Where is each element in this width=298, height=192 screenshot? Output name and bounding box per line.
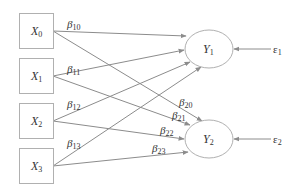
coef-b21: β21 [171,109,185,123]
coef-b13: β13 [66,137,80,151]
coef-b11: β11 [66,63,80,77]
error-e2: ε2 [273,133,282,147]
edge-x1-y2 [53,76,190,125]
node-x0: X0 [20,14,54,49]
path-diagram: X0 X1 X2 X3 Y1 Y2 ε1 ε2 β10 β11 β12 β13 … [0,0,298,192]
node-x3: X3 [20,149,54,184]
error-e1: ε1 [273,43,282,57]
node-y2: Y2 [185,120,233,158]
coef-b10: β10 [66,18,80,32]
coef-b12: β12 [66,98,80,112]
coef-b22: β22 [159,124,173,138]
coef-b23: β23 [151,142,165,156]
coef-b20: β20 [178,96,192,110]
node-y1: Y1 [185,30,233,68]
edge-x3-y2 [53,152,188,166]
node-x2: X2 [20,104,54,139]
node-x1: X1 [20,59,54,94]
